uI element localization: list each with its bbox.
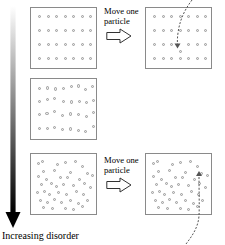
caption-line-1: Move one — [104, 6, 139, 16]
particle — [42, 170, 45, 173]
particle — [81, 43, 84, 46]
particle — [65, 193, 68, 196]
particle — [81, 205, 84, 208]
particle — [45, 112, 48, 115]
particle — [92, 125, 95, 128]
particle — [38, 100, 41, 103]
caption-bottom: Move oneparticle — [104, 155, 139, 175]
moved-particle — [179, 50, 182, 53]
particle — [162, 57, 165, 60]
particle — [196, 29, 199, 32]
particle — [153, 43, 156, 46]
particle — [46, 98, 49, 101]
particle — [196, 165, 199, 168]
particle — [190, 190, 193, 193]
particle — [45, 178, 48, 181]
particle — [72, 184, 75, 187]
block-arrow-shape — [107, 29, 131, 43]
block-arrow-shape — [107, 178, 131, 192]
particle — [170, 185, 173, 188]
particle — [60, 201, 63, 204]
particle — [91, 85, 94, 88]
particle — [175, 201, 178, 204]
particle — [187, 208, 190, 211]
particle — [38, 29, 41, 32]
particle — [179, 57, 182, 60]
particle — [77, 113, 80, 116]
particle — [77, 202, 80, 205]
particle — [180, 193, 183, 196]
particle — [168, 169, 171, 172]
particle — [37, 175, 40, 178]
particle — [196, 205, 199, 208]
particle — [189, 160, 192, 163]
particle — [157, 170, 160, 173]
disordered-gas-before — [30, 153, 97, 215]
particle — [166, 207, 169, 210]
particle — [153, 57, 156, 60]
particle — [55, 185, 58, 188]
particle — [181, 176, 184, 179]
particle — [81, 15, 84, 18]
particle — [179, 207, 182, 210]
particle — [72, 15, 75, 18]
particle — [64, 161, 67, 164]
particle — [158, 190, 161, 193]
particle — [92, 99, 95, 102]
figure-canvas: Move oneparticleMove oneparticleIncreasi… — [0, 0, 225, 245]
particle — [72, 43, 75, 46]
particle — [64, 15, 67, 18]
particle — [184, 171, 187, 174]
particle — [179, 29, 182, 32]
particle — [64, 43, 67, 46]
particle — [81, 29, 84, 32]
particle — [55, 15, 58, 18]
disorder-arrow-head — [6, 212, 21, 228]
block-arrow-top — [106, 28, 132, 44]
particle — [54, 87, 57, 90]
particle — [154, 199, 157, 202]
particle — [152, 162, 155, 165]
particle — [47, 29, 50, 32]
particle — [206, 174, 209, 177]
particle — [91, 174, 94, 177]
particle — [187, 57, 190, 60]
particle — [156, 160, 159, 163]
intermediate-partially-disordered — [30, 78, 97, 140]
particle — [51, 207, 54, 210]
particle — [162, 15, 165, 18]
particle — [168, 198, 171, 201]
ordered-lattice-before — [30, 7, 97, 69]
particle — [204, 15, 207, 18]
particle — [43, 190, 46, 193]
particle — [170, 43, 173, 46]
particle — [187, 43, 190, 46]
particle — [57, 191, 60, 194]
particle — [171, 163, 174, 166]
particle — [55, 29, 58, 32]
particle — [38, 113, 41, 116]
particle — [152, 175, 155, 178]
particle — [74, 160, 77, 163]
particle — [151, 191, 154, 194]
particle — [61, 128, 64, 131]
particle — [170, 15, 173, 18]
particle — [184, 199, 187, 202]
particle — [170, 57, 173, 60]
particle — [89, 57, 92, 60]
particle — [46, 127, 49, 130]
particle — [89, 29, 92, 32]
caption-line-2: particle — [104, 165, 139, 175]
particle — [47, 57, 50, 60]
particle — [187, 29, 190, 32]
particle — [155, 183, 158, 186]
particle — [62, 100, 65, 103]
particle — [204, 29, 207, 32]
particle — [161, 201, 164, 204]
particle — [78, 178, 81, 181]
particle — [37, 162, 40, 165]
particle — [53, 126, 56, 129]
particle — [62, 87, 65, 90]
particle — [69, 199, 72, 202]
particle — [153, 29, 156, 32]
